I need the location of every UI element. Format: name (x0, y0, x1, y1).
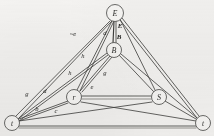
node-S-label: S (157, 93, 161, 102)
edge-label-e: e (91, 83, 94, 90)
node-E-label: E (112, 9, 118, 18)
edge-E-B-a (113, 21, 114, 43)
edge-label-b: b (35, 105, 39, 112)
graph-svg: E B r S t t ~e (0, 0, 214, 136)
edge-label-h-lower: h (68, 69, 72, 76)
edge-label-E: E (117, 22, 123, 30)
node-E[interactable]: E (107, 5, 124, 22)
node-B[interactable]: B (107, 43, 122, 58)
diagram-canvas: E B r S t t ~e (0, 0, 214, 136)
edge-label-h-upper: h (81, 52, 85, 59)
edge-B-S (119, 55, 154, 92)
node-t-right[interactable]: t (196, 116, 211, 131)
node-r-label: r (73, 93, 76, 102)
edge-layer (16, 18, 199, 128)
edge-B-r-b (82, 57, 112, 92)
edge-E-S (120, 19, 155, 90)
edge-label-tilde-e: ~e (70, 30, 77, 37)
edge-r-t2 (81, 102, 196, 121)
edge-label-d-lower: d (43, 87, 47, 94)
node-S[interactable]: S (152, 90, 167, 105)
edge-B-t2 (121, 54, 197, 118)
edge-label-B: B (116, 33, 122, 41)
node-B-label: B (112, 46, 117, 55)
node-t-left[interactable]: t (5, 116, 20, 131)
edge-B-t-b (19, 55, 108, 121)
edge-label-c: c (55, 107, 58, 114)
edge-E-t-a (16, 21, 110, 116)
edge-label-g-upper: g (103, 69, 107, 76)
edge-B-t-a (18, 53, 107, 119)
node-r[interactable]: r (67, 90, 82, 105)
edge-label-g-lower: g (25, 90, 29, 97)
